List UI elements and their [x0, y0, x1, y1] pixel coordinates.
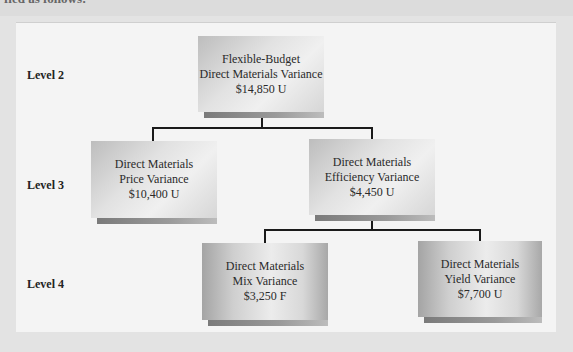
price-amount: $10,400 U [129, 187, 180, 202]
level-4-label: Level 4 [27, 277, 64, 292]
flexible-budget-amount: $14,850 U [236, 82, 287, 97]
level-3-label: Level 3 [27, 178, 64, 193]
level-2-label: Level 2 [27, 68, 64, 83]
mix-line1: Direct Materials [226, 259, 304, 274]
connector-to-price [152, 127, 154, 141]
price-variance-box: Direct Materials Price Variance $10,400 … [91, 141, 217, 218]
efficiency-box-shadow [315, 215, 435, 221]
yield-variance-box: Direct Materials Yield Variance $7,700 U [418, 241, 542, 317]
efficiency-line2: Efficiency Variance [325, 170, 420, 185]
mix-line2: Mix Variance [233, 274, 298, 289]
connector-l2-horizontal [152, 127, 373, 129]
price-line1: Direct Materials [115, 157, 193, 172]
mix-amount: $3,250 F [244, 289, 287, 304]
efficiency-amount: $4,450 U [350, 185, 395, 200]
efficiency-variance-box: Direct Materials Efficiency Variance $4,… [309, 139, 435, 215]
flexible-budget-line2: Direct Materials Variance [199, 67, 322, 82]
yield-line1: Direct Materials [441, 257, 519, 272]
yield-amount: $7,700 U [458, 287, 503, 302]
price-line2: Price Variance [119, 172, 188, 187]
intro-text: fied as follows: [4, 0, 86, 7]
price-box-shadow [97, 218, 217, 224]
connector-to-efficiency [371, 127, 373, 139]
connector-to-mix [264, 229, 266, 243]
flexible-budget-box-shadow [204, 112, 324, 118]
flexible-budget-line1: Flexible-Budget [222, 52, 300, 67]
mix-box-shadow [208, 320, 328, 326]
yield-line2: Yield Variance [445, 272, 516, 287]
mix-variance-box: Direct Materials Mix Variance $3,250 F [202, 243, 328, 320]
efficiency-line1: Direct Materials [333, 155, 411, 170]
yield-box-shadow [424, 317, 542, 323]
flexible-budget-variance-box: Flexible-Budget Direct Materials Varianc… [198, 36, 324, 112]
connector-l3-horizontal [264, 229, 480, 231]
connector-to-yield [479, 229, 481, 241]
